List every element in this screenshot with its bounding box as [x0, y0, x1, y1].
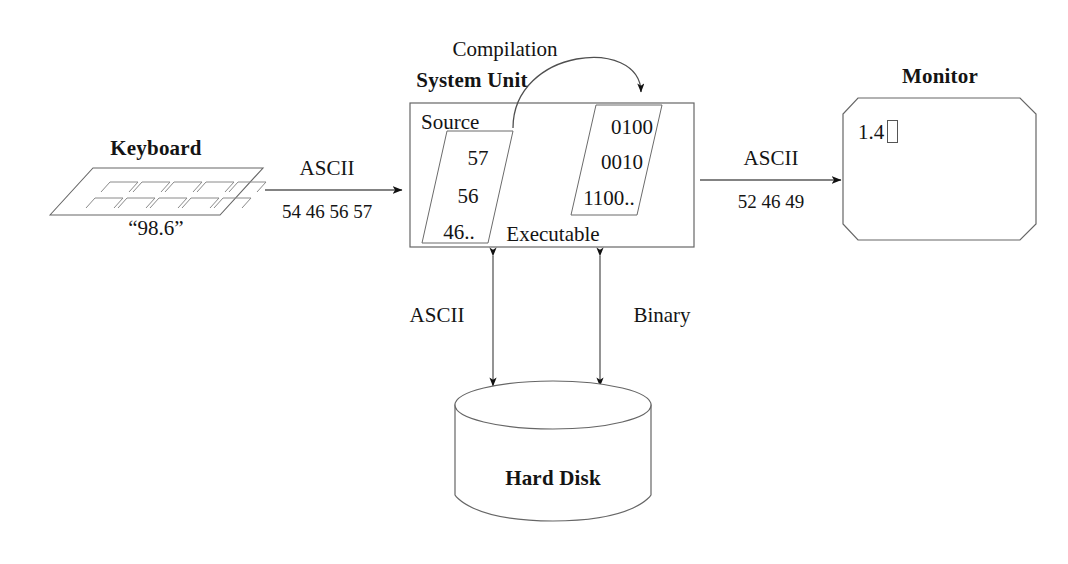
hard-disk-title: Hard Disk	[505, 468, 601, 489]
source-line-2: 46..	[443, 222, 475, 243]
keyboard-shape	[50, 168, 266, 215]
diagram-canvas: Keyboard “98.6” ASCII 54 46 56 57 System…	[0, 0, 1068, 564]
hard-disk-shape	[455, 381, 651, 521]
text-cursor-icon	[887, 120, 898, 143]
monitor-screen-value: 1.4	[858, 120, 884, 144]
monitor-title: Monitor	[902, 66, 978, 87]
executable-line-1: 0010	[601, 152, 643, 173]
edge-unit-monitor-bottom-label: 52 46 49	[738, 192, 805, 211]
edge-keyboard-unit-bottom-label: 54 46 56 57	[282, 202, 372, 221]
edge-unit-monitor-top-label: ASCII	[744, 148, 799, 169]
keyboard-title: Keyboard	[110, 138, 201, 159]
executable-label: Executable	[506, 224, 599, 245]
system-unit-title: System Unit	[416, 70, 527, 91]
edge-keyboard-unit-top-label: ASCII	[300, 158, 355, 179]
compilation-label: Compilation	[453, 39, 558, 60]
executable-line-0: 0100	[611, 117, 653, 138]
source-line-0: 57	[468, 148, 489, 169]
edge-unit-disk-left-label: ASCII	[410, 305, 465, 326]
edge-unit-disk-right-label: Binary	[633, 305, 690, 326]
keyboard-caption: “98.6”	[128, 218, 183, 239]
source-line-1: 56	[458, 186, 479, 207]
source-label: Source	[421, 112, 479, 133]
executable-line-2: 1100..	[583, 188, 635, 209]
monitor-screen-readout: 1.4	[858, 120, 898, 143]
